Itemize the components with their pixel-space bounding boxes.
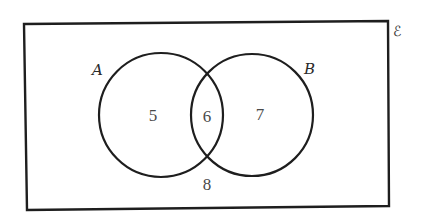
region-a-and-b-count: 6 [203,107,212,126]
region-b-only-count: 7 [256,105,265,124]
set-b-label: B [303,60,315,78]
region-a-only-count: 5 [149,106,158,125]
region-neither-count: 8 [203,175,212,194]
universal-set-label: ℰ [393,23,401,39]
venn-diagram: ℰ A B 5 6 7 8 [0,0,425,214]
set-a-label: A [90,61,103,79]
